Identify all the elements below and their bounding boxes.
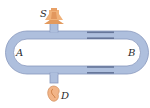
detector-label: D [61, 91, 69, 101]
detector-stem [50, 73, 58, 84]
interference-tube-diagram: S A B D [0, 0, 150, 108]
path-b-label: B [128, 48, 135, 58]
path-a-label: A [16, 48, 23, 58]
ear-icon [48, 86, 59, 101]
speaker-icon [44, 8, 64, 24]
source-label: S [40, 9, 47, 19]
